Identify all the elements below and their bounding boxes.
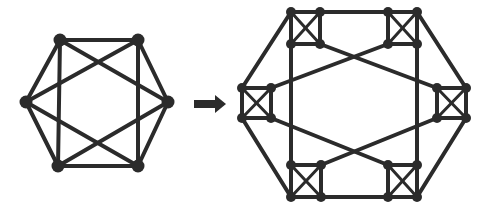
graph-node bbox=[54, 34, 67, 47]
graph-node bbox=[383, 7, 393, 17]
transform-arrow-icon bbox=[194, 95, 226, 113]
graph-node bbox=[412, 39, 422, 49]
arrow-shaft bbox=[194, 100, 217, 108]
clique-cluster bbox=[286, 7, 325, 49]
clique-cluster bbox=[383, 160, 422, 202]
graph-node bbox=[52, 160, 65, 173]
graph-node bbox=[237, 83, 247, 93]
graph-edge bbox=[242, 118, 291, 197]
graph-node bbox=[286, 39, 296, 49]
graph-node bbox=[315, 39, 325, 49]
graph-node bbox=[266, 113, 276, 123]
graph-edge bbox=[271, 118, 388, 165]
graph-node bbox=[286, 192, 296, 202]
graph-node bbox=[383, 160, 393, 170]
graph-node bbox=[237, 113, 247, 123]
graph-node bbox=[461, 83, 471, 93]
graph-node bbox=[132, 34, 145, 47]
graph-edge bbox=[242, 12, 291, 88]
graph-node bbox=[315, 7, 325, 17]
graph-edge bbox=[321, 118, 437, 165]
graph-node bbox=[286, 160, 296, 170]
graph-node bbox=[412, 7, 422, 17]
graph-node bbox=[20, 96, 33, 109]
clique-cluster bbox=[286, 160, 326, 202]
right-graph bbox=[237, 7, 471, 202]
graph-node bbox=[461, 113, 471, 123]
graph-edge bbox=[271, 44, 388, 88]
graph-node bbox=[432, 113, 442, 123]
clique-cluster bbox=[237, 83, 276, 123]
left-graph bbox=[20, 34, 175, 173]
graph-edge bbox=[320, 44, 437, 88]
graph-node bbox=[412, 160, 422, 170]
graph-edge bbox=[58, 40, 60, 166]
graph-node bbox=[162, 96, 175, 109]
graph-node bbox=[432, 83, 442, 93]
graph-node bbox=[412, 192, 422, 202]
graph-node bbox=[383, 39, 393, 49]
graph-node bbox=[132, 160, 145, 173]
graph-node bbox=[266, 83, 276, 93]
graph-node bbox=[316, 192, 326, 202]
graph-node bbox=[383, 192, 393, 202]
graph-diagram bbox=[0, 0, 491, 210]
graph-node bbox=[316, 160, 326, 170]
graph-node bbox=[286, 7, 296, 17]
graph-edge bbox=[417, 12, 466, 88]
graph-edge bbox=[417, 118, 466, 197]
arrow-head bbox=[215, 95, 226, 113]
clique-cluster bbox=[383, 7, 422, 49]
clique-cluster bbox=[432, 83, 471, 123]
